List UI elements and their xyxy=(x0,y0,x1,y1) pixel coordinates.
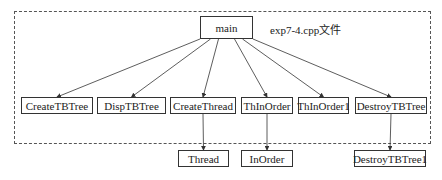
node-disp-tbtree: DispTBTree xyxy=(97,97,166,114)
file-caption: exp7-4.cpp文件 xyxy=(270,21,341,37)
node-thread: Thread xyxy=(178,150,229,167)
node-thinorder: ThInOrder xyxy=(241,97,293,114)
edge-main-to-DispTBTree xyxy=(132,39,211,97)
edge-CreateThread-to-Thread xyxy=(203,114,204,150)
edge-DestroyTBTree-to-DestroyTBTree1 xyxy=(390,114,391,150)
node-create-tbtree: CreateTBTree xyxy=(21,97,93,114)
node-inorder: InOrder xyxy=(241,150,293,167)
node-thinorder1: ThInOrder1 xyxy=(298,97,349,114)
edge-main-to-CreateTBTree xyxy=(57,39,200,97)
node-destroy-tbtree: DestroyTBTree xyxy=(355,97,427,114)
call-graph-diagram: main exp7-4.cpp文件 CreateTBTree DispTBTre… xyxy=(0,0,442,180)
edge-main-to-ThInOrder1 xyxy=(243,39,324,97)
edge-main-to-DestroyTBTree xyxy=(253,39,391,97)
node-main: main xyxy=(200,16,253,39)
node-create-thread: CreateThread xyxy=(170,97,236,114)
edge-main-to-CreateThread xyxy=(203,39,219,97)
node-destroy-tbtree1: DestroyTBTree1 xyxy=(354,150,426,167)
edge-main-to-ThInOrder xyxy=(235,39,268,97)
